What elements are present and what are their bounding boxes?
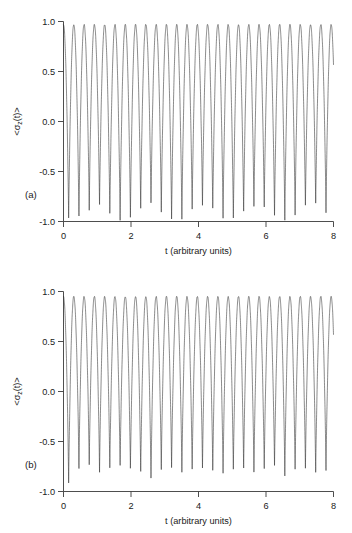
y-axis-title-open: <σ: [12, 124, 22, 135]
x-tick-label: 2: [128, 231, 133, 241]
y-tick-label: 1.0: [42, 287, 55, 297]
figure-container: 1.0 0.5 0.0 -0.5 -1.0 0 2 4 6 8: [0, 0, 352, 533]
y-axis-title-close: (t)>: [12, 107, 22, 121]
y-tick-label: -1.0: [39, 487, 55, 497]
y-axis-title-open: <σ: [12, 394, 22, 405]
panel-a: 1.0 0.5 0.0 -0.5 -1.0 0 2 4 6 8: [0, 2, 352, 260]
y-axis-title-close: (t)>: [12, 377, 22, 391]
x-tick-label: 0: [61, 501, 66, 511]
x-axis-title: t (arbitrary units): [165, 246, 232, 256]
x-tick-label: 4: [196, 231, 201, 241]
y-tick-label: 0.0: [42, 117, 55, 127]
x-axis-title: t (arbitrary units): [165, 516, 232, 526]
svg-text:<σz(t)>: <σz(t)>: [12, 377, 23, 405]
x-tick-label: 6: [263, 231, 268, 241]
x-tick-label: 0: [61, 231, 66, 241]
data-curve-a: [64, 25, 334, 221]
y-tick-label: 0.0: [42, 387, 55, 397]
x-tick-label: 6: [263, 501, 268, 511]
panel-b: 1.0 0.5 0.0 -0.5 -1.0 0 2 4 6 8 t (arbit…: [0, 272, 352, 530]
y-tick-label: 0.5: [42, 337, 55, 347]
x-tick-label: 8: [331, 231, 336, 241]
y-axis-title: <σz(t)>: [12, 107, 23, 135]
x-tick-label: 2: [128, 501, 133, 511]
x-tick-label: 8: [331, 501, 336, 511]
y-tick-label: -1.0: [39, 217, 55, 227]
y-tick-label: 1.0: [42, 17, 55, 27]
y-tick-label: -0.5: [39, 167, 55, 177]
data-curve-b: [64, 297, 334, 483]
panel-b-plot: 1.0 0.5 0.0 -0.5 -1.0 0 2 4 6 8 t (arbit…: [0, 272, 352, 530]
y-axis-title: <σz(t)>: [12, 377, 23, 405]
svg-text:<σz(t)>: <σz(t)>: [12, 107, 23, 135]
panel-a-plot: 1.0 0.5 0.0 -0.5 -1.0 0 2 4 6 8: [0, 2, 352, 260]
y-tick-label: -0.5: [39, 437, 55, 447]
y-tick-label: 0.5: [42, 67, 55, 77]
panel-tag-b: (b): [25, 459, 37, 470]
x-tick-label: 4: [196, 501, 201, 511]
panel-tag-a: (a): [25, 189, 37, 200]
